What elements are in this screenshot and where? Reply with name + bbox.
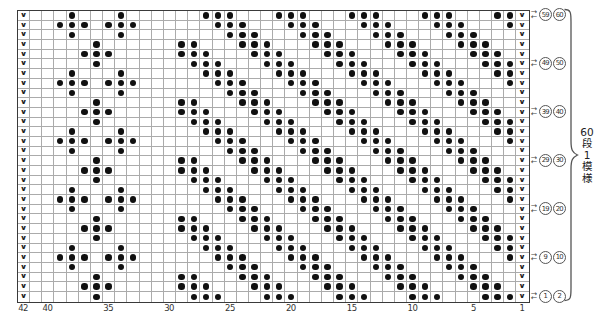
grid-cell <box>79 263 91 273</box>
grid-cell <box>42 89 54 99</box>
contrast-stitch-dot <box>434 128 440 134</box>
grid-cell <box>480 127 492 137</box>
grid-cell <box>456 59 468 69</box>
grid-cell <box>237 40 249 50</box>
contrast-stitch-dot <box>288 187 294 193</box>
grid-cell <box>188 282 200 292</box>
grid-cell <box>152 156 164 166</box>
grid-cell <box>164 292 176 302</box>
grid-cell <box>273 30 285 40</box>
grid-cell <box>298 244 310 254</box>
contrast-stitch-dot <box>276 225 282 231</box>
grid-cell <box>176 234 188 244</box>
stitch-number-1: 1 <box>520 303 525 313</box>
grid-cell <box>164 137 176 147</box>
grid-cell <box>67 282 79 292</box>
contrast-stitch-dot <box>324 32 330 38</box>
contrast-stitch-dot <box>470 274 476 280</box>
grid-cell <box>67 205 79 215</box>
contrast-stitch-dot <box>191 216 197 222</box>
grid-cell <box>54 137 66 147</box>
grid-cell <box>285 11 297 21</box>
grid-cell <box>67 263 79 273</box>
contrast-stitch-dot <box>434 254 440 260</box>
contrast-stitch-dot <box>373 32 379 38</box>
contrast-stitch-dot <box>69 245 75 251</box>
grid-cell: ∨ <box>516 69 528 79</box>
contrast-stitch-dot <box>215 245 221 251</box>
contrast-stitch-dot <box>105 283 111 289</box>
grid-cell <box>103 137 115 147</box>
grid-cell: ∨ <box>516 108 528 118</box>
slip-stitch-symbol: ∨ <box>17 89 31 98</box>
contrast-stitch-dot <box>118 12 124 18</box>
grid-cell <box>431 156 443 166</box>
grid-cell <box>261 40 273 50</box>
slip-stitch-symbol: ∨ <box>17 253 31 262</box>
grid-cell <box>468 40 480 50</box>
grid-cell <box>431 50 443 60</box>
grid-cell <box>67 176 79 186</box>
contrast-stitch-dot <box>361 119 367 125</box>
slip-stitch-symbol: ∨ <box>515 195 530 204</box>
contrast-stitch-dot <box>300 22 306 28</box>
grid-cell <box>383 185 395 195</box>
grid-cell <box>115 214 127 224</box>
grid-cell <box>249 253 261 263</box>
grid-cell <box>140 282 152 292</box>
contrast-stitch-dot <box>300 148 306 154</box>
grid-cell <box>395 282 407 292</box>
contrast-stitch-dot <box>336 109 342 115</box>
grid-cell <box>407 98 419 108</box>
grid-cell <box>383 292 395 302</box>
contrast-stitch-dot <box>130 22 136 28</box>
grid-cell <box>237 11 249 21</box>
grid-cell <box>273 127 285 137</box>
grid-cell <box>261 273 273 283</box>
contrast-stitch-dot <box>264 51 270 57</box>
grid-cell <box>54 195 66 205</box>
contrast-stitch-dot <box>349 177 355 183</box>
contrast-stitch-dot <box>227 264 233 270</box>
grid-cell <box>468 234 480 244</box>
grid-cell <box>322 127 334 137</box>
grid-cell <box>249 89 261 99</box>
grid-cell <box>395 195 407 205</box>
grid-cell <box>67 69 79 79</box>
grid-cell <box>115 59 127 69</box>
grid-cell <box>371 108 383 118</box>
grid-cell <box>334 214 346 224</box>
grid-cell <box>273 195 285 205</box>
grid-cell <box>188 40 200 50</box>
contrast-stitch-dot <box>470 148 476 154</box>
grid-cell: ∨ <box>18 89 30 99</box>
grid-cell: ∨ <box>18 282 30 292</box>
grid-cell <box>310 147 322 157</box>
contrast-stitch-dot <box>507 196 513 202</box>
grid-cell <box>261 108 273 118</box>
grid-cell: ∨ <box>516 127 528 137</box>
grid-cell <box>443 185 455 195</box>
slip-stitch-symbol: ∨ <box>515 79 530 88</box>
contrast-stitch-dot <box>458 99 464 105</box>
grid-cell: ∨ <box>18 263 30 273</box>
circled-row-number: 59 <box>539 8 552 21</box>
grid-cell <box>140 50 152 60</box>
grid-cell <box>383 234 395 244</box>
slip-stitch-symbol: ∨ <box>17 50 31 59</box>
grid-cell: ∨ <box>18 244 30 254</box>
grid-cell <box>322 98 334 108</box>
grid-cell <box>273 89 285 99</box>
grid-cell <box>91 40 103 50</box>
contrast-stitch-dot <box>118 80 124 86</box>
grid-cell <box>383 253 395 263</box>
grid-cell <box>322 137 334 147</box>
contrast-stitch-dot <box>361 80 367 86</box>
slip-stitch-symbol: ∨ <box>17 98 31 107</box>
grid-cell <box>371 69 383 79</box>
grid-cell <box>407 21 419 31</box>
grid-cell <box>54 21 66 31</box>
grid-cell <box>407 282 419 292</box>
grid-cell <box>395 50 407 60</box>
grid-cell <box>358 185 370 195</box>
